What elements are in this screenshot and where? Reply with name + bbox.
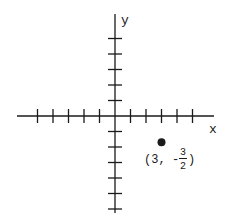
x-axis-label: x — [209, 122, 217, 137]
coordinate-plane-svg: y x (3, - 3 2 ) — [0, 0, 225, 219]
y-axis-label: y — [121, 13, 129, 28]
coordinate-plane: y x (3, - 3 2 ) — [0, 0, 225, 219]
plotted-point — [158, 138, 166, 146]
fraction-denominator: 2 — [180, 161, 186, 172]
point-label: (3, - 3 2 ) — [144, 147, 195, 172]
point-label-sign: - — [172, 153, 179, 167]
point-label-prefix: (3, — [144, 153, 166, 167]
fraction-numerator: 3 — [180, 147, 186, 158]
point-label-suffix: ) — [188, 153, 195, 167]
